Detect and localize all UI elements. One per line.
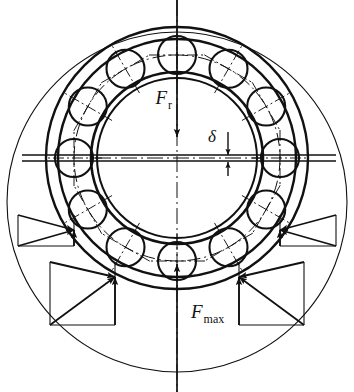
radial-load-subscript: r [168, 98, 172, 112]
diagram-canvas: Fr Fmax δ [0, 0, 354, 392]
horizontal-force-arrow [239, 262, 304, 277]
bearing-load-diagram: Fr Fmax δ [0, 0, 354, 392]
resultant-force-arrow [50, 277, 115, 325]
lower-left-contact [50, 262, 115, 325]
max-load-subscript: max [204, 312, 225, 326]
lower-right-contact [239, 262, 304, 325]
clearance-label: δ [208, 127, 217, 146]
horizontal-centerline [22, 155, 336, 161]
resultant-force-arrow [280, 230, 336, 246]
resultant-force-arrow [239, 277, 304, 325]
max-load-symbol: F [190, 301, 203, 322]
upper-left-contact [18, 215, 74, 246]
horizontal-force-arrow [50, 262, 115, 277]
radial-load-label: Fr [154, 87, 172, 112]
resultant-force-arrow [18, 230, 74, 246]
radial-load-symbol: F [154, 87, 167, 108]
upper-right-contact [280, 215, 336, 246]
max-load-label: Fmax [190, 301, 224, 326]
